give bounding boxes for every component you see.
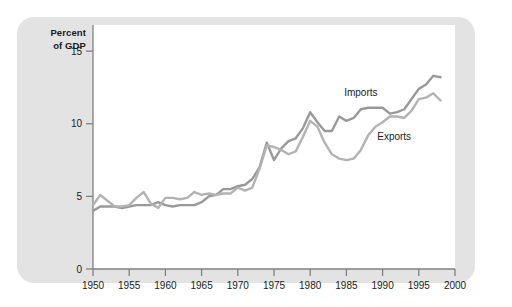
x-tick-label: 1960 [154,280,177,291]
y-tick-label: 0 [76,264,82,275]
y-axis-ticks: 051015 [71,46,93,275]
x-tick-label: 1965 [190,280,213,291]
series-label-imports: Imports [344,87,377,98]
series-line-exports [93,93,441,208]
y-tick-label: 10 [71,118,83,129]
data-series-group [93,76,441,211]
x-tick-label: 1985 [335,280,358,291]
series-annotations: ImportsExports [344,87,411,142]
series-line-imports [93,76,441,211]
x-tick-label: 1975 [263,280,286,291]
line-chart: 051015 195019551960196519701975198019851… [0,0,512,307]
x-tick-label: 1950 [82,280,105,291]
chart-figure: Percent of GDP 051015 195019551960196519… [0,0,512,307]
x-tick-label: 2000 [444,280,467,291]
x-tick-label: 1970 [227,280,250,291]
x-tick-label: 1955 [118,280,141,291]
x-tick-label: 1990 [371,280,394,291]
x-axis: 1950195519601965197019751980198519901995… [82,269,467,291]
y-tick-label: 5 [76,191,82,202]
y-tick-label: 15 [71,46,83,57]
series-label-exports: Exports [377,131,411,142]
x-axis-ticks: 1950195519601965197019751980198519901995… [82,269,467,291]
x-tick-label: 1995 [408,280,431,291]
x-tick-label: 1980 [299,280,322,291]
y-axis: 051015 [71,25,93,275]
